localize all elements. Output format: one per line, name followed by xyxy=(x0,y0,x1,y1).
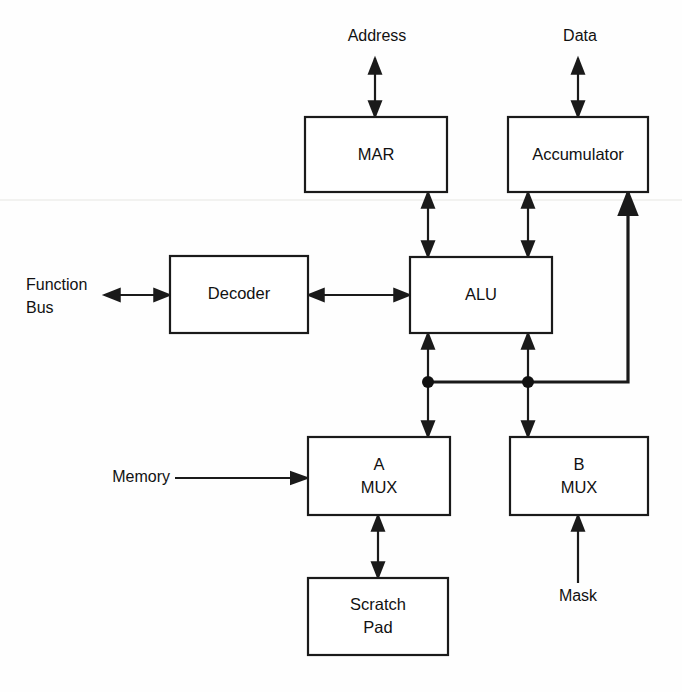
block-a-mux[interactable] xyxy=(308,437,450,515)
block-a-mux-label-line2: MUX xyxy=(361,478,398,496)
bus-junction-b-dot xyxy=(522,376,534,388)
block-b-mux[interactable] xyxy=(510,437,648,515)
block-alu-label: ALU xyxy=(465,285,497,303)
io-label-data: Data xyxy=(563,27,597,44)
io-label-function-bus-line2: Bus xyxy=(26,299,54,316)
block-decoder-label: Decoder xyxy=(208,284,271,302)
bus-junction-a-dot xyxy=(422,376,434,388)
block-b-mux-label-line1: B xyxy=(573,455,584,473)
io-label-mask: Mask xyxy=(559,587,598,604)
block-scratch-pad-label-line2: Pad xyxy=(363,618,392,636)
block-scratch-pad[interactable] xyxy=(308,578,448,655)
diagram-canvas: MAR Accumulator Decoder ALU A MUX B MUX … xyxy=(0,0,682,692)
io-label-memory: Memory xyxy=(112,468,170,485)
block-mar-label: MAR xyxy=(358,145,395,163)
io-label-function-bus-line1: Function xyxy=(26,276,87,293)
block-accumulator-label: Accumulator xyxy=(532,145,624,163)
block-b-mux-label-line2: MUX xyxy=(561,478,598,496)
block-scratch-pad-label-line1: Scratch xyxy=(350,595,406,613)
scan-artifact-band xyxy=(0,199,682,201)
block-a-mux-label-line1: A xyxy=(373,455,384,473)
io-label-address: Address xyxy=(348,27,407,44)
cpu-block-diagram: MAR Accumulator Decoder ALU A MUX B MUX … xyxy=(0,0,682,692)
